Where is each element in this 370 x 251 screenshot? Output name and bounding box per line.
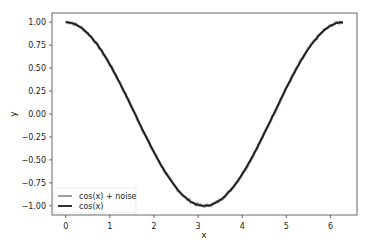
plot-area: [66, 22, 343, 206]
y-tick-label: 0.50: [28, 64, 46, 73]
x-axis-ticks: 0123456: [63, 215, 333, 231]
x-axis-label: x: [201, 230, 207, 240]
x-tick-label: 1: [107, 222, 112, 231]
legend-label-cos: cos(x): [79, 202, 103, 211]
line-chart: 0123456 1.000.750.500.250.00−0.25−0.50−0…: [0, 0, 370, 251]
y-tick-label: 0.75: [28, 41, 46, 50]
series-line: [66, 22, 343, 206]
x-tick-label: 4: [240, 222, 245, 231]
x-tick-label: 5: [284, 222, 289, 231]
y-tick-label: −0.25: [21, 133, 46, 142]
y-tick-label: 0.00: [28, 110, 46, 119]
x-tick-label: 3: [196, 222, 201, 231]
y-axis-ticks: 1.000.750.500.250.00−0.25−0.50−0.75−1.00: [21, 18, 52, 211]
series-line: [66, 22, 343, 206]
y-tick-label: 1.00: [28, 18, 46, 27]
x-tick-label: 6: [328, 222, 333, 231]
legend: cos(x) + noise cos(x): [54, 188, 137, 213]
x-tick-label: 0: [63, 222, 68, 231]
y-tick-label: 0.25: [28, 87, 46, 96]
y-tick-label: −0.50: [21, 156, 46, 165]
y-tick-label: −1.00: [21, 202, 46, 211]
y-axis-label: y: [8, 111, 18, 117]
y-tick-label: −0.75: [21, 179, 46, 188]
legend-label-noise: cos(x) + noise: [79, 192, 137, 201]
x-tick-label: 2: [151, 222, 156, 231]
